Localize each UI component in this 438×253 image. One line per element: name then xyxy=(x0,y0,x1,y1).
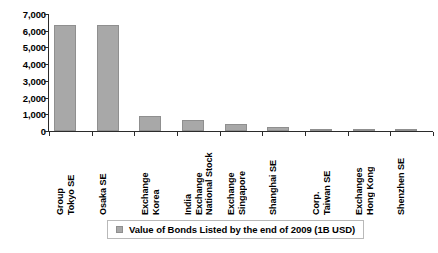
category-label-line: Singapore xyxy=(236,171,247,215)
y-axis-tick-label: 2,000 xyxy=(4,93,46,102)
category-label-line: Shanghai SE xyxy=(268,160,279,215)
x-axis-tick-mark xyxy=(220,132,221,136)
bar xyxy=(139,116,161,131)
category-label-line: National Stock xyxy=(204,152,215,215)
category-label-line: Exchange xyxy=(226,172,237,215)
x-axis-tick-mark xyxy=(348,132,349,136)
bars-layer xyxy=(49,14,433,131)
category-label-line: Hong Kong xyxy=(364,167,375,216)
x-axis-category-label: Shenzhen SE xyxy=(396,137,407,215)
y-axis-tick-label: 5,000 xyxy=(4,43,46,52)
category-label-line: Korea xyxy=(151,189,162,215)
x-axis-tick-mark xyxy=(433,132,434,136)
x-axis-tick-mark xyxy=(305,132,306,136)
category-label-line: Tokyo SE xyxy=(66,175,77,215)
category-label-line: Shenzhen SE xyxy=(396,158,407,215)
legend-label: Value of Bonds Listed by the end of 2009… xyxy=(129,225,355,235)
x-axis-tick-mark xyxy=(49,132,50,136)
category-label-line: Taiwan SE xyxy=(322,171,333,215)
y-axis-tick-label: 7,000 xyxy=(4,10,46,19)
x-axis-tick-mark xyxy=(92,132,93,136)
x-axis-category-label: National StockExchangeIndia xyxy=(183,137,215,215)
y-axis-tick-mark xyxy=(44,81,48,82)
category-label-line: Exchanges xyxy=(354,167,365,215)
bar xyxy=(54,25,76,131)
x-axis-category-label: Tokyo SEGroup xyxy=(55,137,76,215)
x-axis-tick-mark xyxy=(134,132,135,136)
y-axis-tick-label: 6,000 xyxy=(4,26,46,35)
y-axis-tick-label: 1,000 xyxy=(4,110,46,119)
x-axis-category-label: Taiwan SECorp. xyxy=(311,137,332,215)
x-axis-tick-mark xyxy=(390,132,391,136)
category-label-line: Group xyxy=(55,188,66,215)
y-axis-tick-label: 0 xyxy=(4,127,46,136)
y-axis-tick-labels: 7,0006,0005,0004,0003,0002,0001,0000 xyxy=(4,14,46,132)
x-axis-tick-mark xyxy=(262,132,263,136)
y-axis-tick-label: 3,000 xyxy=(4,76,46,85)
y-axis-tick-mark xyxy=(44,47,48,48)
bar-chart-figure: 7,0006,0005,0004,0003,0002,0001,0000 Tok… xyxy=(0,0,438,253)
x-axis-line xyxy=(48,131,433,132)
category-label-line: Osaka SE xyxy=(98,173,109,215)
y-axis-tick-mark xyxy=(44,131,48,132)
category-label-line: Corp. xyxy=(311,192,322,216)
bar xyxy=(310,129,332,131)
x-axis-category-label: Hong KongExchanges xyxy=(354,137,375,215)
x-axis-tick-mark xyxy=(177,132,178,136)
bar xyxy=(225,124,247,131)
bar xyxy=(97,25,119,131)
category-label-line: India xyxy=(183,194,194,215)
legend-swatch-icon xyxy=(116,226,123,233)
x-axis-category-label: KoreaExchange xyxy=(140,137,161,215)
category-label-line: Exchange xyxy=(194,172,205,215)
y-axis-tick-mark xyxy=(44,98,48,99)
y-axis-tick-mark xyxy=(44,14,48,15)
plot-area: 7,0006,0005,0004,0003,0002,0001,0000 xyxy=(0,0,438,145)
bar xyxy=(395,129,417,131)
x-axis-category-label: SingaporeExchange xyxy=(226,137,247,215)
bar xyxy=(182,120,204,131)
x-axis-category-labels: Tokyo SEGroupOsaka SEKoreaExchangeNation… xyxy=(49,137,433,217)
bar xyxy=(353,129,375,131)
category-label-line: Exchange xyxy=(140,172,151,215)
y-axis-tick-mark xyxy=(44,64,48,65)
y-axis-tick-label: 4,000 xyxy=(4,60,46,69)
y-axis-tick-mark xyxy=(44,31,48,32)
bar xyxy=(267,127,289,131)
x-axis-category-label: Shanghai SE xyxy=(268,137,279,215)
y-axis-tick-mark xyxy=(44,114,48,115)
x-axis-category-label: Osaka SE xyxy=(98,137,109,215)
chart-legend: Value of Bonds Listed by the end of 2009… xyxy=(107,220,364,239)
